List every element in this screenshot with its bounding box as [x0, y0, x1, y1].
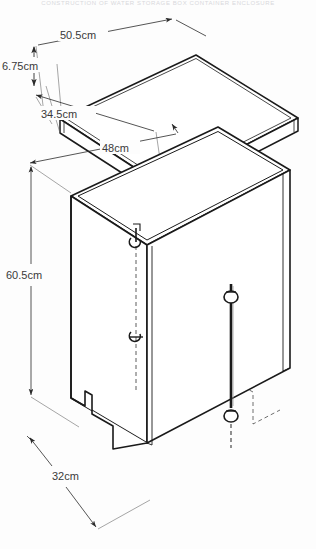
- dim-label-32: 32cm: [52, 470, 79, 482]
- dim-line-32-b: [66, 487, 96, 527]
- rod-clamp-upper: [224, 291, 238, 303]
- dim-ext-32-lower: [98, 500, 150, 529]
- dimension-body-height: 60.5cm: [5, 167, 57, 395]
- box-body-object: [71, 127, 290, 449]
- dim-label-48: 48cm: [102, 142, 129, 154]
- dim-ext-50-5-right: [176, 20, 206, 36]
- rod-clamp-lower: [224, 410, 238, 422]
- rod-clamp-lower-ring: [224, 410, 238, 422]
- technical-drawing-canvas: 50.5cm 6.75cm 34.5cm: [0, 0, 316, 549]
- dim-label-34-5: 34.5cm: [41, 108, 77, 120]
- drawing-page: CONSTRUCTION OF WATER STORAGE BOX CONTAI…: [0, 0, 316, 549]
- dim-label-60-5: 60.5cm: [6, 269, 42, 281]
- dim-ext-32-upper: [31, 397, 79, 427]
- dim-ext-48-left: [30, 165, 71, 193]
- body-front-corner-bottom: [147, 443, 152, 445]
- dim-label-6-75: 6.75cm: [2, 60, 38, 72]
- dimension-lid-height: 6.75cm: [1, 47, 62, 133]
- dim-line-32-a: [30, 438, 52, 466]
- dim-label-50-5: 50.5cm: [60, 29, 96, 41]
- rod-clamp-upper-ring: [224, 291, 238, 303]
